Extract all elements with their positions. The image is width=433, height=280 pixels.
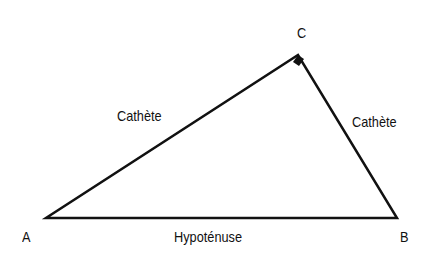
vertex-label-b: B <box>400 228 409 245</box>
side-label-ac: Cathète <box>117 107 162 124</box>
side-label-bc: Cathète <box>352 113 397 130</box>
triangle-outline <box>46 55 397 218</box>
vertex-label-c: C <box>297 24 306 41</box>
side-label-ab: Hypoténuse <box>174 228 242 245</box>
vertex-label-a: A <box>22 228 31 245</box>
